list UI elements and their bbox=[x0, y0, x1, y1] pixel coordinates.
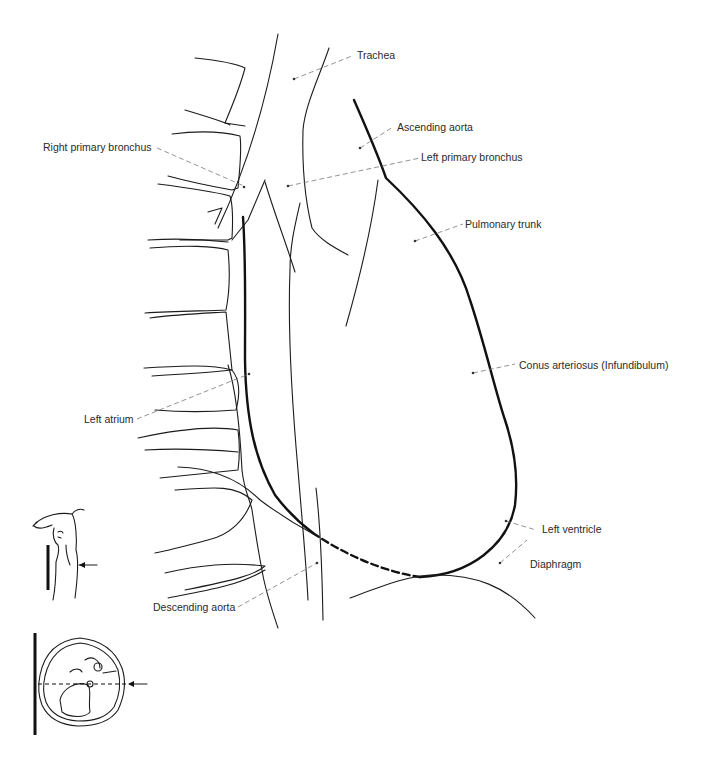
label-left-atrium: Left atrium bbox=[84, 413, 134, 425]
thorax-cross-section-icon bbox=[35, 633, 147, 735]
patient-lateral-position-icon bbox=[33, 509, 97, 600]
leader-lines bbox=[137, 56, 536, 607]
label-descending-aorta: Descending aorta bbox=[153, 601, 235, 613]
label-right-primary-bronchus: Right primary bronchus bbox=[43, 141, 152, 153]
labels: Trachea Ascending aorta Right primary br… bbox=[43, 49, 668, 613]
label-trachea: Trachea bbox=[357, 49, 395, 61]
diaphragm-curve bbox=[350, 575, 535, 618]
label-diaphragm: Diaphragm bbox=[530, 558, 582, 570]
label-conus-arteriosus: Conus arteriosus (Infundibulum) bbox=[519, 359, 668, 371]
trachea-walls bbox=[218, 34, 378, 620]
label-left-primary-bronchus: Left primary bronchus bbox=[421, 151, 523, 163]
label-ascending-aorta: Ascending aorta bbox=[397, 121, 473, 133]
lateral-chest-anatomy-diagram: Trachea Ascending aorta Right primary br… bbox=[0, 0, 709, 776]
label-left-ventricle: Left ventricle bbox=[542, 523, 602, 535]
label-pulmonary-trunk: Pulmonary trunk bbox=[465, 218, 542, 230]
vertebral-column bbox=[138, 58, 278, 628]
